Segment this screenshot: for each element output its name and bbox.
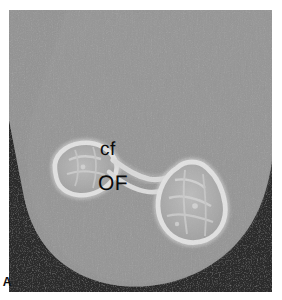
annotation-label-cf: cf — [100, 140, 116, 159]
ct-scan-image: cf OF — [9, 10, 272, 292]
global-film-grain — [9, 10, 272, 292]
panel-letter: A — [1, 274, 13, 290]
ct-scan-canvas — [9, 10, 272, 292]
annotation-label-of: OF — [98, 173, 128, 194]
figure-panel: cf OF A — [0, 0, 282, 300]
